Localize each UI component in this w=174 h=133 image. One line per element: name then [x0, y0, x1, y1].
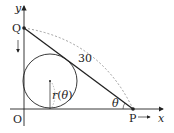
origin-label: O — [13, 113, 22, 126]
angle-arc — [123, 103, 125, 109]
point-p-label: P — [129, 112, 137, 125]
point-p — [131, 107, 135, 111]
point-q — [22, 26, 26, 30]
radius-label: r(θ) — [52, 89, 72, 102]
y-axis-label: y — [14, 2, 22, 15]
x-axis-label: x — [158, 112, 165, 125]
geometry-diagram: y x O r(θ) Q P θ 30 — [0, 0, 174, 133]
angle-label: θ — [112, 97, 119, 110]
point-q-label: Q — [12, 22, 21, 35]
length-label: 30 — [78, 52, 92, 65]
